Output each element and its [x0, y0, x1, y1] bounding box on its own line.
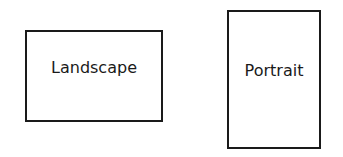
landscape-rectangle: Landscape	[25, 30, 163, 122]
landscape-label: Landscape	[51, 58, 137, 77]
portrait-label: Portrait	[245, 61, 304, 80]
portrait-rectangle: Portrait	[227, 10, 321, 149]
